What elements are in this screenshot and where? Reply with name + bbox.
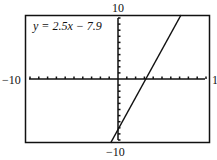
axes xyxy=(29,18,206,140)
x-max-label: 1 xyxy=(212,74,217,86)
y-max-label: 10 xyxy=(112,2,124,14)
x-min-label: −10 xyxy=(2,74,21,86)
equation-label: y = 2.5x − 7.9 xyxy=(33,20,102,32)
y-min-label: −10 xyxy=(106,146,125,158)
